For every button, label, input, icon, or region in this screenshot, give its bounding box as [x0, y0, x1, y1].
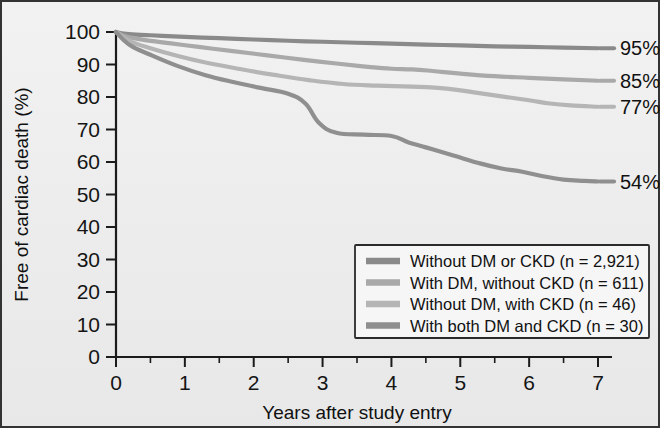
y-tick-label: 10: [77, 313, 100, 336]
survival-curve-chart: 010203040506070809010001234567Years afte…: [2, 2, 660, 428]
x-tick-label: 2: [248, 371, 260, 394]
x-tick-label: 3: [317, 371, 329, 394]
y-tick-label: 30: [77, 248, 100, 271]
x-tick-label: 1: [179, 371, 191, 394]
curve-series-4: [116, 32, 598, 182]
y-tick-label: 100: [65, 20, 100, 43]
curve-series-2: [116, 32, 598, 81]
y-tick-label: 80: [77, 85, 100, 108]
legend-label-3: Without DM, with CKD (n = 46): [410, 295, 636, 313]
legend-label-1: Without DM or CKD (n = 2,921): [410, 252, 640, 270]
y-tick-label: 70: [77, 118, 100, 141]
figure-frame: 010203040506070809010001234567Years afte…: [0, 0, 660, 428]
y-tick-label: 60: [77, 150, 100, 173]
legend-label-4: With both DM and CKD (n = 30): [410, 317, 643, 335]
x-tick-label: 5: [454, 371, 466, 394]
y-tick-label: 40: [77, 215, 100, 238]
y-axis-title: Free of cardiac death (%): [11, 87, 32, 301]
chart-stage: 010203040506070809010001234567Years afte…: [2, 2, 660, 428]
x-tick-label: 4: [386, 371, 398, 394]
end-label-2: 85%: [620, 70, 660, 92]
x-tick-label: 6: [523, 371, 535, 394]
y-tick-label: 50: [77, 183, 100, 206]
end-label-4: 54%: [620, 171, 660, 193]
legend-label-2: With DM, without CKD (n = 611): [410, 274, 644, 292]
end-label-3: 77%: [620, 96, 660, 118]
x-axis-title: Years after study entry: [262, 402, 452, 423]
end-label-1: 95%: [620, 37, 660, 59]
x-tick-label: 0: [110, 371, 122, 394]
y-tick-label: 20: [77, 280, 100, 303]
y-tick-label: 90: [77, 53, 100, 76]
y-tick-label: 0: [88, 345, 100, 368]
x-tick-label: 7: [592, 371, 604, 394]
